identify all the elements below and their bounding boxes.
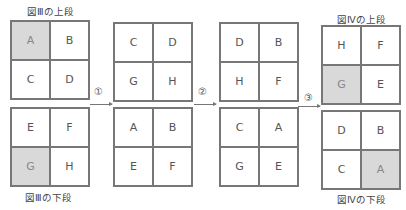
cell: F: [50, 108, 89, 147]
step-2-label: ②: [198, 86, 207, 97]
cell: C: [220, 108, 259, 147]
cell: F: [153, 147, 192, 186]
cell: F: [259, 62, 298, 101]
label-fig4-top: 図Ⅳの上段: [337, 12, 386, 26]
cell: E: [11, 108, 50, 147]
cell: E: [114, 147, 153, 186]
cell: E: [361, 65, 400, 104]
grid-stage2-bottom: A B E F: [113, 107, 193, 187]
arrow-step-2: [194, 104, 216, 105]
cell: D: [220, 23, 259, 62]
grid-stage1-top: A B C D: [10, 20, 90, 100]
cell: D: [153, 23, 192, 62]
cell: G: [220, 147, 259, 186]
cell: A: [259, 108, 298, 147]
cell: C: [114, 23, 153, 62]
cell: H: [220, 62, 259, 101]
grid-stage3-top: D B H F: [219, 22, 299, 102]
step-3-label: ③: [304, 92, 313, 103]
cell: H: [153, 62, 192, 101]
cell: D: [50, 60, 89, 99]
arrow-step-1: [90, 104, 112, 105]
grid-stage3-bottom: C A G E: [219, 107, 299, 187]
grid-stage1-bottom: E F G H: [10, 107, 90, 187]
label-fig4-bottom: 図Ⅳの下段: [337, 192, 386, 206]
label-fig3-bottom: 図Ⅲの下段: [25, 190, 72, 204]
cell: B: [259, 23, 298, 62]
cell: G: [114, 62, 153, 101]
grid-stage2-top: C D G H: [113, 22, 193, 102]
cell: G: [11, 147, 50, 186]
arrow-step-3: [298, 106, 320, 107]
cell: B: [361, 111, 400, 150]
cell: A: [114, 108, 153, 147]
cell: C: [322, 150, 361, 189]
grid-stage4-bottom: D B C A: [321, 110, 401, 190]
step-1-label: ①: [94, 86, 103, 97]
cell: B: [50, 21, 89, 60]
cell: C: [11, 60, 50, 99]
cell: A: [11, 21, 50, 60]
label-fig3-top: 図Ⅲの上段: [27, 4, 74, 18]
grid-stage4-top: H F G E: [321, 25, 401, 105]
cell: D: [322, 111, 361, 150]
cell: F: [361, 26, 400, 65]
cell: H: [322, 26, 361, 65]
cell: E: [259, 147, 298, 186]
cell: H: [50, 147, 89, 186]
cell: G: [322, 65, 361, 104]
cell: B: [153, 108, 192, 147]
cell: A: [361, 150, 400, 189]
